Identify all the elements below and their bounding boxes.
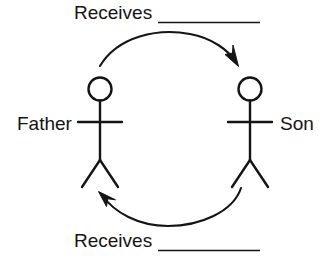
son-right-leg [250,160,268,187]
actor-label-son: Son [280,114,314,133]
son-left-leg [232,160,250,187]
arrowhead-top [225,45,239,67]
arrow-curve-top [100,32,236,66]
father-left-leg [82,160,100,187]
stick-figure-son [228,78,272,188]
father-right-leg [100,160,118,187]
flow-label-receives-bottom: Receives [74,231,152,250]
arrow-son-to-father [99,188,242,226]
arrow-curve-bottom [103,188,241,226]
arrow-father-to-son [100,32,239,66]
actor-label-father: Father [17,114,72,133]
father-head-icon [89,78,112,101]
stick-figure-father [78,78,122,188]
flow-label-receives-top: Receives [74,3,152,22]
son-head-icon [239,78,262,101]
arrowhead-bottom [99,192,116,207]
diagram-canvas: Receives Receives Father Son [0,0,331,263]
